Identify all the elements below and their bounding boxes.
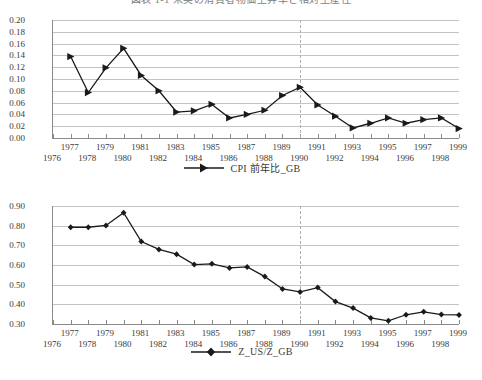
data-point-diamond-icon bbox=[438, 312, 444, 318]
data-point-triangle-icon bbox=[244, 111, 251, 118]
y-axis-tick-label: 0.04 bbox=[0, 110, 25, 119]
x-axis-tick-label: 1985 bbox=[202, 142, 220, 153]
legend-label-top: CPI 前年比_GB bbox=[231, 160, 301, 175]
legend-top: CPI 前年比_GB bbox=[0, 160, 482, 175]
y-axis-tick-label: 0.02 bbox=[0, 122, 25, 131]
data-point-triangle-icon bbox=[385, 114, 392, 121]
y-axis-tick-label: 0.40 bbox=[0, 300, 25, 309]
y-axis-tick-label: 0.08 bbox=[0, 86, 25, 95]
x-axis-tick-label: 1999 bbox=[449, 328, 467, 339]
x-axis-tick-label: 1981 bbox=[131, 142, 149, 153]
data-point-triangle-icon bbox=[403, 120, 410, 127]
data-point-diamond-icon bbox=[421, 309, 427, 315]
data-point-diamond-icon bbox=[209, 261, 215, 267]
x-axis-tick-label: 1999 bbox=[449, 142, 467, 153]
legend-marker-right-triangle-icon bbox=[182, 163, 226, 173]
y-axis-tick-label: 0.30 bbox=[0, 320, 25, 329]
x-axis-tick bbox=[459, 134, 460, 138]
data-point-triangle-icon bbox=[438, 114, 445, 121]
data-point-diamond-icon bbox=[156, 246, 162, 252]
y-axis-tick-label: 0.16 bbox=[0, 39, 25, 48]
legend-marker-diamond-icon bbox=[189, 347, 233, 357]
plot-area-top: 0.200.180.160.140.120.100.080.060.040.02… bbox=[52, 20, 459, 139]
legend-label-bottom: Z_US/Z_GB bbox=[238, 346, 292, 357]
x-axis-tick-label: 1993 bbox=[343, 142, 361, 153]
x-axis-tick-label: 1987 bbox=[237, 328, 255, 339]
y-axis-tick-label: 0.14 bbox=[0, 51, 25, 60]
data-point-diamond-icon bbox=[68, 224, 74, 230]
chart-cpi-gb: 0.200.180.160.140.120.100.080.060.040.02… bbox=[0, 12, 482, 192]
data-point-triangle-icon bbox=[191, 107, 198, 114]
x-axis-tick-label: 1981 bbox=[131, 328, 149, 339]
y-axis-tick-label: 0.80 bbox=[0, 221, 25, 230]
data-point-triangle-icon bbox=[367, 120, 374, 127]
y-axis-tick-label: 0.90 bbox=[0, 202, 25, 211]
data-point-diamond-icon bbox=[350, 305, 356, 311]
x-axis-tick-label: 1993 bbox=[343, 328, 361, 339]
x-axis-tick-label: 1991 bbox=[308, 142, 326, 153]
series-line bbox=[71, 213, 459, 321]
y-axis-tick-label: 0.12 bbox=[0, 63, 25, 72]
y-axis-tick-label: 0.70 bbox=[0, 241, 25, 250]
x-axis-tick-label: 1983 bbox=[167, 142, 185, 153]
x-axis-tick-label: 1979 bbox=[96, 328, 114, 339]
y-axis-tick-label: 0.00 bbox=[0, 134, 25, 143]
data-point-triangle-icon bbox=[85, 89, 92, 96]
data-point-diamond-icon bbox=[174, 251, 180, 257]
y-axis-tick-label: 0.06 bbox=[0, 98, 25, 107]
x-axis-tick-label: 1997 bbox=[414, 328, 432, 339]
series-line bbox=[71, 48, 459, 128]
data-point-triangle-icon bbox=[420, 116, 427, 123]
x-axis-tick-label: 1989 bbox=[272, 142, 290, 153]
data-point-diamond-icon bbox=[227, 265, 233, 271]
x-axis-tick-label: 1991 bbox=[308, 328, 326, 339]
x-axis-tick-label: 1997 bbox=[414, 142, 432, 153]
y-axis-tick-label: 0.60 bbox=[0, 261, 25, 270]
x-label-row-upper: 1977197919811983198519871989199119931995… bbox=[52, 142, 458, 153]
data-point-diamond-icon bbox=[297, 289, 303, 295]
x-axis-tick-label: 1995 bbox=[378, 142, 396, 153]
data-point-triangle-icon bbox=[279, 92, 286, 99]
x-axis-tick-label: 1987 bbox=[237, 142, 255, 153]
x-axis-tick-label: 1977 bbox=[61, 142, 79, 153]
data-point-diamond-icon bbox=[244, 264, 250, 270]
x-axis-tick-label: 1979 bbox=[96, 142, 114, 153]
x-axis-tick-label: 1985 bbox=[202, 328, 220, 339]
x-label-row-upper: 1977197919811983198519871989199119931995… bbox=[52, 328, 458, 339]
data-point-triangle-icon bbox=[226, 114, 233, 121]
data-point-triangle-icon bbox=[173, 108, 180, 115]
y-axis-tick-label: 0.50 bbox=[0, 280, 25, 289]
figure-caption: 図表 1-1 米英の消費者物価上昇率と相対生産性 bbox=[0, 0, 482, 4]
data-point-diamond-icon bbox=[403, 312, 409, 318]
data-point-triangle-icon bbox=[120, 45, 127, 52]
data-point-diamond-icon bbox=[385, 318, 391, 324]
data-point-triangle-icon bbox=[67, 53, 74, 60]
data-point-triangle-icon bbox=[350, 124, 357, 131]
data-point-diamond-icon bbox=[368, 315, 374, 321]
series-layer bbox=[53, 206, 459, 324]
y-axis-tick-label: 0.10 bbox=[0, 75, 25, 84]
x-axis-tick-label: 1977 bbox=[61, 328, 79, 339]
data-point-triangle-icon bbox=[314, 101, 321, 108]
data-point-diamond-icon bbox=[456, 312, 462, 318]
y-axis-tick-label: 0.18 bbox=[0, 27, 25, 36]
series-layer bbox=[53, 20, 459, 138]
y-axis-tick-label: 0.20 bbox=[0, 16, 25, 25]
x-axis-tick bbox=[459, 320, 460, 324]
chart-z-us-z-gb: 0.900.800.700.600.500.400.30 19771979198… bbox=[0, 198, 482, 380]
x-axis-tick-label: 1989 bbox=[272, 328, 290, 339]
data-point-triangle-icon bbox=[456, 125, 463, 132]
x-axis-tick-label: 1995 bbox=[378, 328, 396, 339]
data-point-diamond-icon bbox=[85, 224, 91, 230]
legend-bottom: Z_US/Z_GB bbox=[0, 346, 482, 359]
data-point-diamond-icon bbox=[191, 262, 197, 268]
x-axis-tick-label: 1983 bbox=[167, 328, 185, 339]
plot-area-bottom: 0.900.800.700.600.500.400.30 bbox=[52, 206, 459, 325]
